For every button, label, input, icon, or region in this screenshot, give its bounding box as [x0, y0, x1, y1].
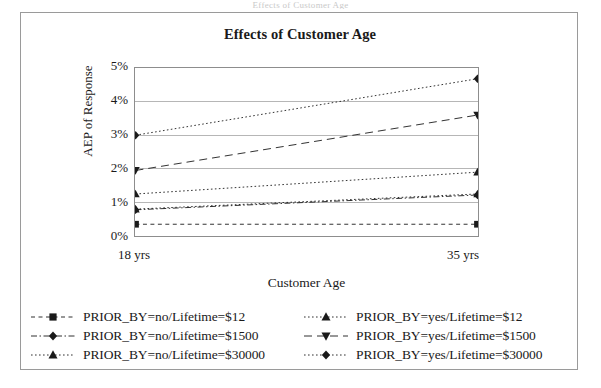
plot-svg: [135, 68, 478, 236]
series-0: [135, 221, 478, 228]
series-2: [135, 168, 478, 198]
triangle-up-marker: [135, 205, 140, 213]
y-tick-label-3: 3%: [86, 126, 128, 142]
series-line: [135, 79, 477, 135]
page-bleed-text: Effects of Customer Age: [0, 0, 601, 9]
plot-area: [134, 67, 479, 237]
triangle-down-marker: [135, 167, 140, 175]
legend-label: PRIOR_BY=yes/Lifetime=$30000: [356, 347, 542, 363]
y-axis-tick-labels: 5% 4% 3% 2% 1% 0%: [86, 58, 128, 246]
legend-key: [30, 329, 76, 343]
y-tick-label-5: 5%: [86, 58, 128, 74]
square-marker: [474, 221, 478, 228]
legend-label: PRIOR_BY=no/Lifetime=$12: [83, 309, 245, 325]
series-layer: [135, 75, 478, 228]
legend-key: [303, 310, 349, 324]
square-marker: [49, 313, 56, 320]
y-tick-label-2: 2%: [86, 160, 128, 176]
square-marker: [135, 221, 139, 228]
triangle-up-marker: [49, 350, 58, 358]
legend-label: PRIOR_BY=no/Lifetime=$30000: [83, 347, 265, 363]
gridlines: [135, 102, 478, 203]
legend-key: [30, 310, 76, 324]
chart-title: Effects of Customer Age: [21, 26, 579, 43]
legend-item[interactable]: PRIOR_BY=yes/Lifetime=$1500: [303, 328, 570, 344]
series-line: [135, 172, 477, 194]
legend-key: [303, 329, 349, 343]
triangle-up-marker: [322, 312, 331, 320]
legend-item[interactable]: PRIOR_BY=yes/Lifetime=$30000: [303, 347, 570, 363]
legend-item[interactable]: PRIOR_BY=no/Lifetime=$30000: [30, 347, 297, 363]
chart-legend: PRIOR_BY=no/Lifetime=$12PRIOR_BY=yes/Lif…: [30, 307, 570, 363]
series-4: [135, 112, 478, 175]
legend-label: PRIOR_BY=no/Lifetime=$1500: [83, 328, 258, 344]
legend-item[interactable]: PRIOR_BY=yes/Lifetime=$12: [303, 309, 570, 325]
legend-key: [303, 348, 349, 362]
y-tick-label-1: 1%: [86, 194, 128, 210]
plot-region: AEP of Response 5% 4% 3% 2% 1% 0% 18 yrs…: [134, 67, 479, 237]
legend-key: [30, 348, 76, 362]
legend-label: PRIOR_BY=yes/Lifetime=$1500: [356, 328, 536, 344]
y-tick-label-0: 0%: [86, 228, 128, 244]
x-tick-label-1: 35 yrs: [447, 247, 479, 263]
series-line: [135, 194, 477, 209]
diamond-marker: [322, 350, 330, 359]
diamond-marker: [474, 75, 478, 83]
x-axis-title: Customer Age: [134, 275, 479, 291]
diamond-marker: [49, 331, 57, 340]
triangle-up-marker: [135, 190, 140, 198]
series-5: [135, 75, 478, 140]
figure-frame: Effects of Customer Age AEP of Response …: [20, 12, 578, 370]
triangle-up-marker: [473, 190, 478, 198]
triangle-down-marker: [322, 332, 331, 340]
series-3: [135, 190, 478, 213]
y-tick-label-4: 4%: [86, 92, 128, 108]
series-line: [135, 115, 477, 170]
diamond-marker: [135, 131, 139, 139]
x-tick-label-0: 18 yrs: [118, 247, 150, 263]
legend-item[interactable]: PRIOR_BY=no/Lifetime=$1500: [30, 328, 297, 344]
legend-item[interactable]: PRIOR_BY=no/Lifetime=$12: [30, 309, 297, 325]
legend-label: PRIOR_BY=yes/Lifetime=$12: [356, 309, 522, 325]
